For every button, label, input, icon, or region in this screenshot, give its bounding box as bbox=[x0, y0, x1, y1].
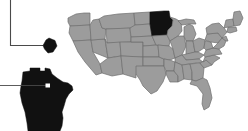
state-south-dakota bbox=[130, 24, 152, 37]
state-colorado bbox=[120, 42, 143, 57]
state-oregon bbox=[69, 25, 91, 41]
state-arkansas bbox=[164, 59, 175, 71]
state-michigan-upper bbox=[178, 19, 196, 25]
state-maine bbox=[233, 11, 243, 26]
state-massachusetts bbox=[227, 27, 237, 33]
state-inset-minnesota-shape bbox=[20, 68, 73, 131]
state-wyoming bbox=[106, 28, 131, 43]
state-montana bbox=[99, 13, 135, 29]
us-states-group bbox=[68, 11, 243, 110]
state-pointer-marker bbox=[46, 84, 51, 88]
state-washington bbox=[68, 13, 90, 26]
county-inset-group bbox=[11, 0, 58, 53]
map-figure: United States map with Minnesota highlig… bbox=[0, 0, 248, 131]
state-north-dakota bbox=[134, 12, 150, 25]
figure-caption: United States map with Minnesota highlig… bbox=[0, 130, 1, 131]
state-kansas bbox=[143, 45, 159, 57]
map-svg bbox=[0, 0, 248, 131]
state-florida bbox=[190, 78, 212, 110]
state-ohio bbox=[193, 38, 205, 52]
county-leader-line bbox=[11, 0, 44, 46]
state-inset-group bbox=[0, 68, 73, 131]
state-michigan bbox=[184, 24, 196, 41]
state-oklahoma bbox=[143, 57, 164, 66]
state-arizona bbox=[100, 56, 123, 76]
county-inset-shape bbox=[43, 38, 57, 53]
state-texas bbox=[136, 66, 166, 94]
